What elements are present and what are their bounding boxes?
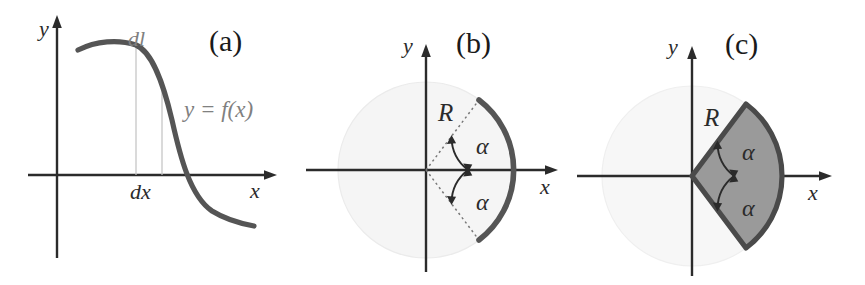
- dl-label: dl: [128, 28, 145, 50]
- y-axis: [52, 15, 62, 258]
- panel-b: R α α y x (b): [290, 0, 575, 285]
- panel-b-canvas: [290, 0, 575, 285]
- y-axis-label: y: [39, 18, 49, 40]
- function-label: y = f(x): [184, 98, 253, 121]
- x-axis: [28, 170, 277, 180]
- panel-b-label: (b): [456, 28, 491, 58]
- radius-label: R: [704, 105, 719, 130]
- differential-tick-lines: [136, 44, 162, 175]
- panel-c-canvas: [575, 0, 865, 285]
- function-curve: [78, 42, 254, 226]
- panel-c-label: (c): [725, 29, 758, 59]
- angle-label-upper: α: [476, 134, 489, 158]
- figure-root: dl dx y = f(x) y x (a): [0, 0, 865, 285]
- angle-label-upper: α: [742, 140, 755, 164]
- x-axis-label: x: [250, 180, 260, 202]
- panel-a: dl dx y = f(x) y x (a): [0, 0, 290, 285]
- panel-a-label: (a): [209, 26, 242, 56]
- radius-label: R: [438, 100, 453, 125]
- angle-label-lower: α: [476, 190, 489, 214]
- dx-label: dx: [130, 181, 151, 203]
- x-axis-label: x: [540, 176, 550, 198]
- y-axis-label: y: [668, 36, 678, 58]
- x-axis-label: x: [808, 182, 818, 204]
- y-axis-label: y: [403, 35, 413, 57]
- panel-c: R α α y x (c): [575, 0, 865, 285]
- angle-label-lower: α: [742, 196, 755, 220]
